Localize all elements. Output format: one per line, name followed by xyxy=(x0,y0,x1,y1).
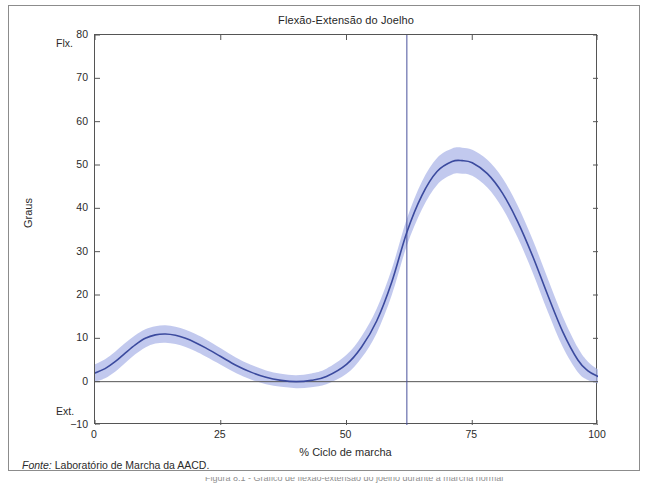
x-tick-label: 25 xyxy=(214,428,226,440)
figure-root: Flexão-Extensão do Joelho Flx. Ext. Grau… xyxy=(0,0,649,486)
x-tick-label: 100 xyxy=(588,428,606,440)
source-note: Fonte: Laboratório de Marcha da AACD. xyxy=(22,459,209,471)
y-tick-label: 0 xyxy=(44,375,88,387)
y-tick-label: −10 xyxy=(44,418,88,430)
figure-caption-strip: Figura 8.1 - Gráfico de flexão-extensão … xyxy=(0,477,649,486)
y-axis-label: Graus xyxy=(22,198,34,228)
y-axis-tick-labels: −1001020304050607080 xyxy=(38,34,88,424)
y-tick-label: 70 xyxy=(44,71,88,83)
y-tick-label: 10 xyxy=(44,331,88,343)
y-tick-label: 20 xyxy=(44,288,88,300)
figure-caption-text: Figura 8.1 - Gráfico de flexão-extensão … xyxy=(205,477,503,483)
chart-title: Flexão-Extensão do Joelho xyxy=(94,14,598,26)
y-tick-label: 30 xyxy=(44,245,88,257)
x-tick-label: 50 xyxy=(340,428,352,440)
source-note-value: Laboratório de Marcha da AACD. xyxy=(52,459,210,471)
source-note-key: Fonte: xyxy=(22,459,52,471)
y-tick-label: 60 xyxy=(44,115,88,127)
plot-area xyxy=(94,34,597,424)
x-axis-tick-labels: 0255075100 xyxy=(94,428,597,444)
standard-deviation-band xyxy=(95,147,598,388)
mean-curve-line xyxy=(95,160,598,381)
plot-svg xyxy=(95,35,598,425)
x-axis-label: % Ciclo de marcha xyxy=(94,446,597,458)
y-tick-label: 80 xyxy=(44,28,88,40)
y-tick-label: 50 xyxy=(44,158,88,170)
x-tick-label: 0 xyxy=(91,428,97,440)
y-tick-label: 40 xyxy=(44,201,88,213)
x-tick-label: 75 xyxy=(465,428,477,440)
